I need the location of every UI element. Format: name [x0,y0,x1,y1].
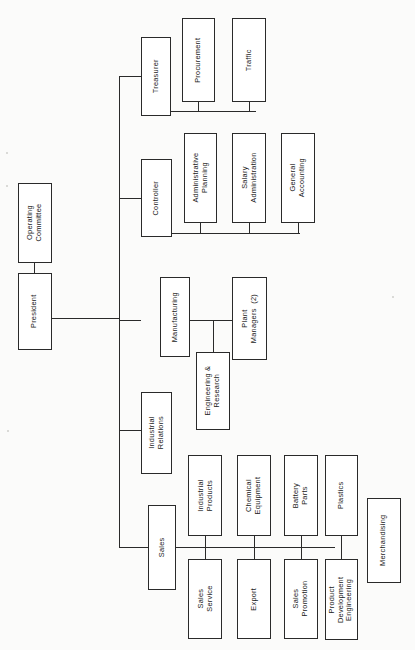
node-label: Engineering & Research [204,366,221,416]
node-label: Battery Parts [292,483,309,508]
node-procurement[interactable]: Procurement [182,18,215,102]
node-treasurer[interactable]: Treasurer [141,37,171,116]
node-label: Export [250,588,259,611]
connector-administrative-planning [200,223,201,234]
node-label: Procurement [194,37,203,82]
connector-procurement [198,101,199,112]
node-general-accounting[interactable]: General Accounting [281,133,315,223]
node-label: Plastics [337,482,346,509]
node-sales-promotion[interactable]: Sales Promotion [284,559,318,639]
connector-operating-committee-president [34,263,35,273]
connector-trunk-manufacturing [119,320,141,321]
node-label: President [31,295,40,328]
node-plant-managers[interactable]: Plant Managers (2) [232,277,267,360]
connector-trunk-sales [119,547,148,548]
node-label: General Accounting [289,158,306,197]
node-label: Manufacturing [171,292,180,342]
connector-trunk-controller [119,198,141,199]
node-engineering-research[interactable]: Engineering & Research [196,352,230,430]
connector-trunk-industrial-relations [119,430,141,431]
node-controller[interactable]: Controller [141,159,172,237]
connector-export [254,547,255,559]
node-label: Controller [152,181,161,216]
controller-bus-final [170,233,300,234]
node-sales-service[interactable]: Sales Service [188,559,222,639]
node-traffic[interactable]: Traffic [232,18,266,102]
connector-president-trunk [52,318,120,319]
connector-traffic [249,101,250,112]
node-chemical-equipment[interactable]: Chemical Equipment [237,455,271,536]
node-label: Operating Committee [26,204,43,242]
scan-artifact [6,185,8,187]
node-product-development-engineering[interactable]: Product Development Engineering [325,559,358,640]
node-merchandising[interactable]: Merchandising [367,498,401,583]
connector-treasurer-spine [170,111,256,112]
node-label: Merchandising [380,515,389,566]
connector-sales-service [205,547,206,559]
node-president[interactable]: President [18,273,52,350]
org-chart-page: Operating Committee President Treasurer … [0,0,415,650]
node-label: Administrative Planning [192,153,209,203]
scan-artifact [6,152,8,154]
connector-sales-promotion [301,547,302,559]
connector-engineering-research [213,320,214,352]
connector-salary-administration [249,223,250,234]
node-label: Product Development Engineering [329,576,355,622]
scan-artifact [392,296,394,298]
node-manufacturing[interactable]: Manufacturing [160,277,190,357]
node-industrial-products[interactable]: Industrial Products [188,455,222,536]
main-trunk [119,76,120,548]
node-salary-administration[interactable]: Salary Administration [232,133,266,223]
node-sales[interactable]: Sales [148,505,176,590]
node-label: Industrial Relations [148,416,165,449]
connector-trunk-treasurer [119,76,141,77]
node-industrial-relations[interactable]: Industrial Relations [141,392,172,474]
node-label: Sales Promotion [292,581,309,617]
node-label: Plant Managers (2) [241,294,258,343]
node-plastics[interactable]: Plastics [325,455,358,536]
node-label: Salary Administration [240,153,257,203]
node-label: Sales [158,538,167,558]
connector-product-development-engineering [341,547,342,559]
node-administrative-planning[interactable]: Administrative Planning [184,133,217,223]
node-label: Traffic [245,49,254,71]
node-label: Sales Service [196,586,213,612]
node-label: Chemical Equipment [245,477,262,515]
node-label: Industrial Products [196,479,213,512]
node-operating-committee[interactable]: Operating Committee [18,183,52,263]
connector-general-accounting [298,223,299,234]
node-label: Treasurer [152,59,161,93]
node-export[interactable]: Export [237,559,271,639]
scan-artifact [7,430,9,432]
node-battery-parts[interactable]: Battery Parts [284,455,318,536]
